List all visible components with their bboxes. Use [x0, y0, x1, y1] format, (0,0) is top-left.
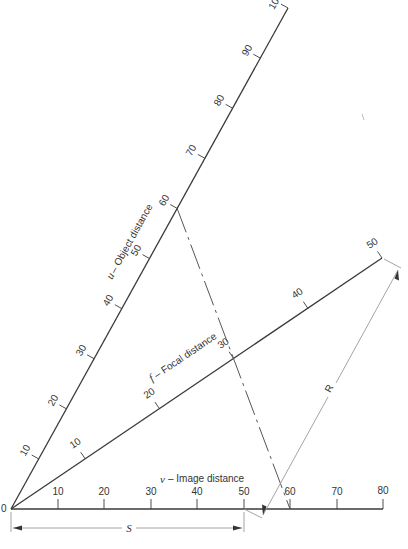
svg-text:80: 80 [377, 485, 389, 496]
svg-text:S: S [126, 522, 132, 534]
svg-text:50: 50 [238, 486, 250, 497]
svg-text:90: 90 [239, 42, 254, 57]
svg-text:100: 100 [266, 0, 284, 11]
svg-text:40: 40 [191, 486, 203, 497]
nomogram-diagram: 10 20 30 40 50 60 70 80 v – Image distan… [0, 0, 408, 549]
svg-text:20: 20 [141, 385, 157, 401]
origin-label: 0 [1, 503, 7, 514]
svg-text:70: 70 [331, 486, 343, 497]
arrow-left-icon [13, 526, 22, 531]
u-axis-ticks [32, 4, 288, 459]
stray-mark [362, 114, 364, 120]
v-axis-title: v – Image distance [160, 473, 245, 485]
svg-text:70: 70 [183, 142, 198, 157]
svg-text:60: 60 [156, 192, 171, 207]
svg-text:40: 40 [100, 292, 115, 307]
svg-text:20: 20 [45, 392, 60, 407]
v-axis-ticks [58, 499, 383, 509]
svg-text:R: R [322, 382, 335, 394]
svg-text:– Image distance: – Image distance [168, 473, 245, 484]
svg-text:10: 10 [52, 486, 64, 497]
svg-text:60: 60 [284, 486, 296, 497]
u-axis-title: u – Object distance [103, 201, 155, 281]
svg-text:30: 30 [215, 335, 231, 351]
svg-text:80: 80 [211, 92, 226, 107]
svg-text:40: 40 [289, 285, 305, 301]
svg-text:30: 30 [73, 342, 88, 357]
svg-text:50: 50 [364, 235, 380, 251]
svg-text:– Focal distance: – Focal distance [152, 330, 219, 380]
svg-text:20: 20 [98, 486, 110, 497]
s-dimension: S [11, 512, 244, 534]
example-dashed-line [177, 208, 290, 509]
svg-text:– Object distance: – Object distance [108, 202, 155, 275]
svg-text:10: 10 [67, 435, 83, 451]
v-axis-tick-labels: 10 20 30 40 50 60 70 80 [52, 485, 389, 497]
svg-text:v: v [160, 473, 165, 485]
svg-text:30: 30 [145, 486, 157, 497]
svg-text:10: 10 [17, 442, 32, 457]
f-axis-ticks [81, 251, 382, 458]
arrow-right-icon [233, 526, 242, 531]
